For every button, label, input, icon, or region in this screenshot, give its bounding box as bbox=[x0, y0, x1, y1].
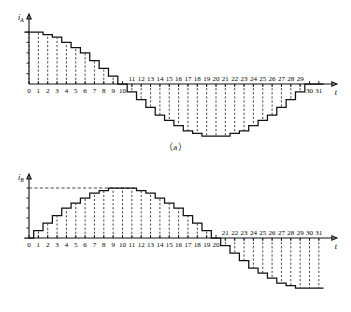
x-tick-label: 1 bbox=[37, 241, 41, 249]
x-tick-label: 24 bbox=[250, 75, 258, 83]
x-tick-label: 1 bbox=[37, 87, 41, 95]
x-tick-label: 5 bbox=[74, 87, 78, 95]
x-tick-label: 17 bbox=[184, 75, 192, 83]
x-axis-label: t bbox=[335, 242, 338, 251]
x-tick-label: 31 bbox=[315, 87, 323, 95]
x-tick-label: 8 bbox=[102, 87, 106, 95]
x-tick-label: 25 bbox=[259, 229, 267, 237]
x-tick-label: 16 bbox=[175, 241, 183, 249]
x-tick-label: 6 bbox=[83, 87, 87, 95]
x-tick-label: 18 bbox=[194, 241, 202, 249]
x-tick-label: 12 bbox=[138, 75, 146, 83]
x-tick-label: 0 bbox=[27, 87, 31, 95]
x-tick-label: 30 bbox=[306, 229, 314, 237]
x-tick-label: 14 bbox=[156, 241, 164, 249]
x-tick-label: 13 bbox=[147, 241, 155, 249]
x-tick-label: 28 bbox=[287, 75, 295, 83]
panel-a-caption: （a） bbox=[0, 140, 351, 153]
x-tick-label: 8 bbox=[102, 241, 106, 249]
x-tick-label: 24 bbox=[250, 229, 258, 237]
x-tick-label: 11 bbox=[128, 75, 135, 83]
x-tick-label: 19 bbox=[203, 75, 211, 83]
x-tick-label: 7 bbox=[93, 87, 97, 95]
x-tick-label: 9 bbox=[111, 87, 115, 95]
x-tick-label: 26 bbox=[269, 75, 277, 83]
x-tick-label: 3 bbox=[55, 87, 59, 95]
x-tick-label: 2 bbox=[46, 241, 50, 249]
x-tick-label: 15 bbox=[166, 241, 174, 249]
x-tick-label: 30 bbox=[306, 87, 314, 95]
x-tick-label: 21 bbox=[222, 229, 230, 237]
y-axis-label: iA bbox=[18, 13, 24, 23]
x-tick-label: 14 bbox=[156, 75, 164, 83]
x-tick-label: 11 bbox=[128, 241, 135, 249]
x-tick-label: 23 bbox=[241, 75, 249, 83]
x-tick-label: 21 bbox=[222, 75, 230, 83]
x-tick-label: 4 bbox=[65, 87, 69, 95]
step-waveform-chart-b: iBt0123456789101112131415161718192021222… bbox=[0, 160, 351, 312]
chart-panel-a: iAt0123456789101112131415161718192021222… bbox=[0, 0, 351, 160]
x-tick-label: 10 bbox=[119, 241, 127, 249]
x-tick-label: 12 bbox=[138, 241, 146, 249]
x-tick-label: 10 bbox=[119, 87, 127, 95]
x-tick-label: 27 bbox=[278, 229, 286, 237]
x-tick-label: 9 bbox=[111, 241, 115, 249]
x-tick-label: 26 bbox=[269, 229, 277, 237]
x-tick-label: 5 bbox=[74, 241, 78, 249]
x-tick-label: 13 bbox=[147, 75, 155, 83]
x-tick-label: 2 bbox=[46, 87, 50, 95]
x-tick-label: 18 bbox=[194, 75, 202, 83]
x-tick-label: 27 bbox=[278, 75, 286, 83]
x-tick-label: 29 bbox=[297, 229, 305, 237]
figure-container: iAt0123456789101112131415161718192021222… bbox=[0, 0, 351, 312]
x-tick-label: 3 bbox=[55, 241, 59, 249]
x-tick-label: 25 bbox=[259, 75, 267, 83]
x-tick-label: 20 bbox=[213, 75, 221, 83]
x-tick-label: 7 bbox=[93, 241, 97, 249]
x-tick-label: 6 bbox=[83, 241, 87, 249]
x-tick-label: 0 bbox=[27, 241, 31, 249]
x-tick-label: 22 bbox=[231, 229, 239, 237]
x-tick-label: 20 bbox=[213, 241, 221, 249]
x-tick-label: 15 bbox=[166, 75, 174, 83]
x-tick-label: 29 bbox=[297, 75, 305, 83]
x-tick-label: 4 bbox=[65, 241, 69, 249]
x-tick-label: 17 bbox=[184, 241, 192, 249]
chart-panel-b: iBt0123456789101112131415161718192021222… bbox=[0, 160, 351, 312]
x-tick-label: 16 bbox=[175, 75, 183, 83]
y-axis-label: iB bbox=[18, 173, 24, 183]
x-tick-label: 19 bbox=[203, 241, 211, 249]
step-waveform-chart-a: iAt0123456789101112131415161718192021222… bbox=[0, 0, 351, 160]
x-tick-label: 31 bbox=[315, 229, 323, 237]
x-axis-label: t bbox=[335, 88, 338, 97]
x-tick-label: 22 bbox=[231, 75, 239, 83]
x-tick-label: 28 bbox=[287, 229, 295, 237]
x-tick-label: 23 bbox=[241, 229, 249, 237]
